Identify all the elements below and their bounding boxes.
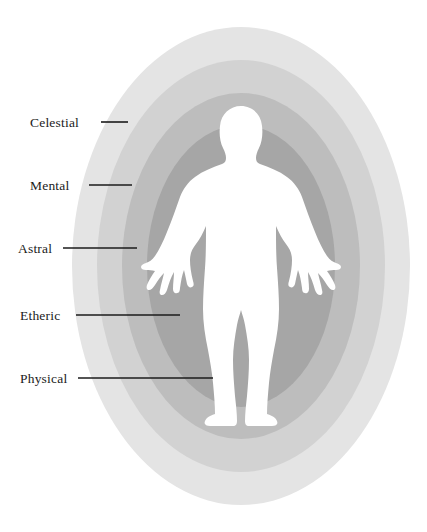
label-etheric-text: Etheric	[20, 308, 60, 323]
label-astral-text: Astral	[18, 241, 52, 256]
aura-layers-diagram: Celestial Mental Astral Etheric Physical	[0, 0, 427, 532]
label-mental-text: Mental	[30, 178, 69, 193]
label-physical-text: Physical	[20, 371, 67, 386]
label-celestial-text: Celestial	[30, 115, 79, 130]
